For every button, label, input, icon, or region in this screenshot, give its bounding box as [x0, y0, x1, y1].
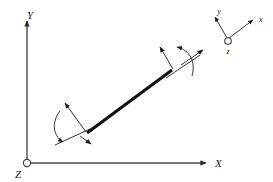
figure-canvas: Y X Z — [0, 0, 273, 182]
global-coordinate-frame: Y X Z — [15, 9, 223, 180]
upper-right-translation-arrow-upper-right — [181, 50, 203, 65]
upper-right-translation-arrow-upper-left — [160, 47, 173, 69]
local-origin-circle — [225, 38, 232, 45]
local-x-axis — [229, 20, 253, 38]
local-x-axis-label: x — [258, 15, 263, 24]
lower-left-translation-arrow-upper-left — [65, 103, 86, 132]
global-origin-circle — [23, 159, 30, 166]
mechanism-diagram: Y X Z — [0, 0, 273, 182]
rigid-link — [87, 70, 172, 133]
lower-left-end-markers — [54, 103, 92, 145]
global-x-axis-label: X — [214, 157, 223, 169]
local-z-axis-label: z — [225, 47, 230, 56]
lower-left-translation-arrow-lower-right — [80, 136, 91, 144]
global-y-axis-label: Y — [27, 9, 35, 21]
global-z-axis-label: Z — [15, 168, 22, 180]
lower-left-axis-stub — [55, 128, 92, 145]
lower-left-rotation-arc — [54, 111, 63, 142]
local-y-axis-label: y — [216, 7, 221, 16]
local-coordinate-frame: y x z — [215, 7, 263, 56]
local-y-axis — [215, 17, 227, 38]
